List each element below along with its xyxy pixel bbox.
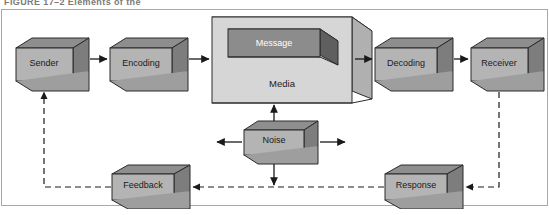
encoding-label: Encoding: [122, 58, 160, 68]
receiver-box: Receiver: [471, 38, 544, 91]
figure-container: FIGURE 17–2 Elements of the: [0, 0, 549, 215]
response-label: Response: [396, 180, 437, 190]
arrowhead-into-response: [466, 184, 474, 191]
noise-box: Noise: [244, 121, 318, 164]
dashed-receiver-response: [466, 92, 499, 187]
media-label: Media: [269, 78, 296, 89]
sender-label: Sender: [29, 58, 58, 68]
response-box: Response: [385, 165, 463, 209]
noise-label: Noise: [262, 135, 285, 145]
sender-box: Sender: [16, 38, 89, 91]
figure-caption: FIGURE 17–2 Elements of the: [4, 0, 404, 9]
feedback-label: Feedback: [123, 180, 163, 190]
communication-process-diagram: Media Message Sender: [0, 9, 549, 209]
decoding-box: Decoding: [375, 38, 453, 91]
arrowhead-into-feedback: [193, 184, 201, 191]
decoding-label: Decoding: [387, 58, 425, 68]
message-label: Message: [256, 38, 293, 48]
arrowhead-into-sender: [41, 92, 48, 100]
receiver-label: Receiver: [481, 58, 517, 68]
dashed-feedback-sender: [44, 93, 111, 187]
encoding-box: Encoding: [110, 38, 188, 91]
feedback-box: Feedback: [112, 165, 190, 209]
